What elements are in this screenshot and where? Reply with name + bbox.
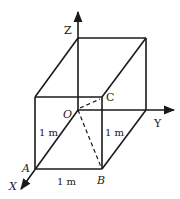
dim-label-vertical: 1 m: [105, 127, 125, 138]
x-axis-label: X: [8, 180, 18, 193]
dashed-o-to-c: [80, 99, 100, 108]
edge-bottom-right: [102, 110, 146, 169]
z-axis-label: Z: [64, 24, 72, 37]
dashed-o-to-b: [78, 110, 101, 167]
point-c-label: C: [106, 91, 114, 104]
point-o-label: O: [63, 108, 72, 121]
y-axis-label: Y: [153, 117, 162, 130]
point-b-label: B: [96, 174, 105, 187]
point-a-label: A: [21, 162, 30, 175]
box-diagram: Z Y X O A B C 1 m 1 m 1 m: [0, 0, 180, 199]
dim-label-oa: 1 m: [39, 127, 59, 138]
dim-label-ab: 1 m: [57, 176, 77, 187]
edge-top-left: [35, 38, 78, 97]
edge-top-right: [102, 38, 146, 97]
